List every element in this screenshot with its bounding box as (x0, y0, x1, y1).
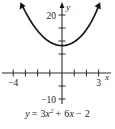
parabola-figure: −4 3 20 −10 y x y=3x2+6x−2 (0, 0, 115, 129)
equation-constant: 2 (85, 108, 90, 119)
equation-operator-plus: + (56, 108, 62, 119)
y-tick-label-neg10: −10 (41, 95, 56, 105)
equation-operator-minus: − (76, 108, 82, 119)
parabola-curve (22, 5, 99, 46)
y-tick-label-20: 20 (47, 11, 57, 21)
graph-canvas: −4 3 20 −10 y x (0, 0, 115, 110)
y-axis-arrow-icon (60, 2, 65, 8)
x-tick-label-3: 3 (96, 78, 101, 88)
equation-caption: y=3x2+6x−2 (0, 108, 115, 119)
equation-equals: = (32, 108, 38, 119)
equation-exponent: 2 (50, 107, 53, 114)
y-axis-label: y (65, 2, 70, 12)
equation-lhs: y (25, 108, 30, 119)
x-axis-label: x (104, 72, 109, 82)
equation-var-linear: x (69, 108, 74, 119)
left-branch-arrow-icon (20, 2, 26, 9)
x-tick-label-neg4: −4 (8, 78, 18, 88)
